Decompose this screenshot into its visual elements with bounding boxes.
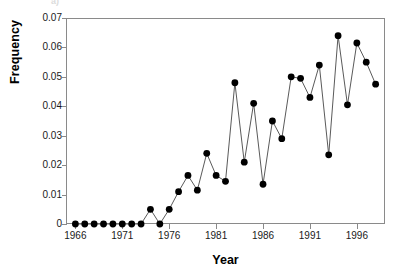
x-tick-label: 1981: [196, 230, 236, 241]
y-tick-mark: [62, 77, 67, 78]
x-tick-mark: [122, 224, 123, 229]
x-tick-label: 1971: [102, 230, 142, 241]
x-tick-label: 1996: [337, 230, 377, 241]
y-tick-mark: [62, 224, 67, 225]
x-tick-mark: [310, 224, 311, 229]
x-axis-ticks: 1966197119761981198619911996: [0, 0, 399, 276]
x-tick-label: 1966: [55, 230, 95, 241]
x-axis-title: Year: [66, 253, 385, 267]
x-tick-label: 1991: [290, 230, 330, 241]
x-tick-label: 1986: [243, 230, 283, 241]
y-tick-mark: [62, 106, 67, 107]
x-tick-mark: [169, 224, 170, 229]
x-tick-mark: [263, 224, 264, 229]
chart-figure: a) Frequency 00.010.020.030.040.050.060.…: [0, 0, 399, 276]
x-tick-label: 1976: [149, 230, 189, 241]
y-tick-mark: [62, 136, 67, 137]
y-tick-mark: [62, 18, 67, 19]
x-tick-mark: [357, 224, 358, 229]
y-tick-mark: [62, 195, 67, 196]
x-tick-mark: [75, 224, 76, 229]
y-tick-mark: [62, 165, 67, 166]
y-tick-mark: [62, 47, 67, 48]
x-tick-mark: [216, 224, 217, 229]
